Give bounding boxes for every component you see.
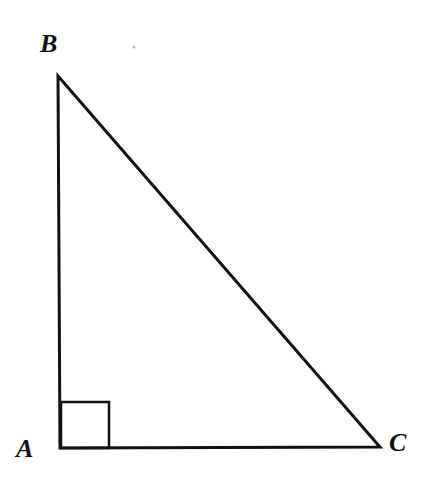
vertex-label-c: C (389, 428, 407, 457)
right-angle-marker (61, 402, 109, 448)
triangle-abc (58, 76, 380, 448)
vertex-label-b: B (39, 29, 57, 58)
speck (133, 46, 136, 49)
triangle-diagram: B A C (0, 0, 432, 480)
vertex-label-a: A (14, 434, 33, 463)
